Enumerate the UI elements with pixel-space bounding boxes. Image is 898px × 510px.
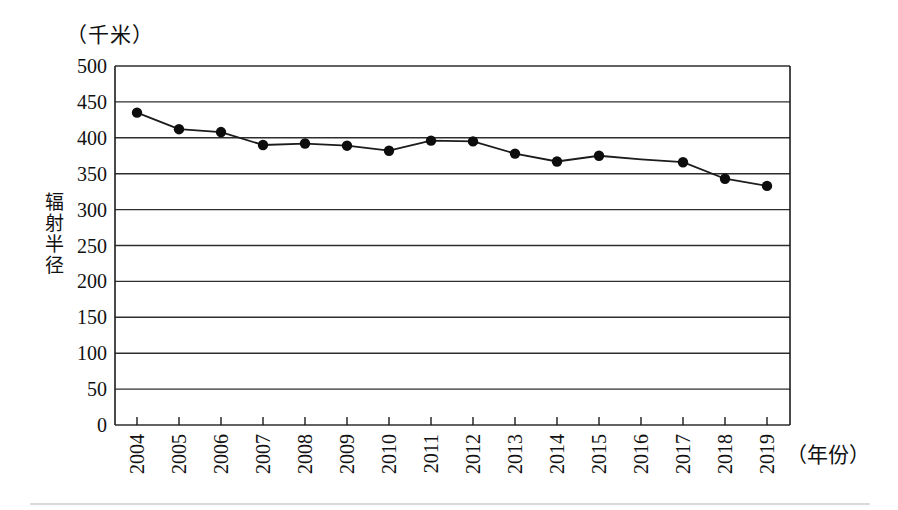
y-tick-label: 250 bbox=[77, 235, 107, 257]
data-point-marker bbox=[300, 138, 310, 148]
data-point-marker bbox=[384, 146, 394, 156]
data-point-marker bbox=[258, 140, 268, 150]
data-point-marker bbox=[468, 136, 478, 146]
y-tick-label: 350 bbox=[77, 163, 107, 185]
bottom-scan-line bbox=[30, 503, 870, 505]
data-point-marker bbox=[510, 148, 520, 158]
x-tick-label: 2008 bbox=[294, 434, 316, 474]
x-tick-label: 2013 bbox=[504, 434, 526, 474]
line-chart-plot-area: 0501001502002503003504004505002004200520… bbox=[0, 0, 898, 510]
x-tick-label: 2007 bbox=[252, 434, 274, 474]
x-axis-unit-label: （年份） bbox=[786, 438, 870, 468]
x-tick-label: 2019 bbox=[756, 434, 778, 474]
data-point-marker bbox=[720, 174, 730, 184]
y-tick-label: 200 bbox=[77, 270, 107, 292]
chart-page: （千米） 辐射半径 050100150200250300350400450500… bbox=[0, 0, 898, 510]
y-tick-label: 400 bbox=[77, 127, 107, 149]
data-point-marker bbox=[216, 127, 226, 137]
data-point-marker bbox=[342, 140, 352, 150]
y-tick-label: 500 bbox=[77, 55, 107, 77]
y-tick-label: 50 bbox=[87, 378, 107, 400]
data-point-marker bbox=[594, 151, 604, 161]
y-tick-label: 450 bbox=[77, 91, 107, 113]
y-tick-label: 300 bbox=[77, 199, 107, 221]
x-tick-label: 2012 bbox=[462, 434, 484, 474]
x-tick-label: 2005 bbox=[168, 434, 190, 474]
y-tick-label: 0 bbox=[97, 414, 107, 436]
data-point-marker bbox=[426, 135, 436, 145]
x-tick-label: 2010 bbox=[378, 434, 400, 474]
y-axis-title: 辐射半径 bbox=[42, 192, 63, 276]
x-tick-label: 2006 bbox=[210, 434, 232, 474]
data-point-marker bbox=[174, 124, 184, 134]
data-point-marker bbox=[762, 181, 772, 191]
x-tick-label: 2009 bbox=[336, 434, 358, 474]
x-tick-label: 2018 bbox=[714, 434, 736, 474]
x-tick-label: 2017 bbox=[672, 434, 694, 474]
data-line bbox=[137, 113, 767, 186]
y-tick-label: 150 bbox=[77, 306, 107, 328]
x-tick-label: 2004 bbox=[126, 434, 148, 474]
x-tick-label: 2016 bbox=[630, 434, 652, 474]
data-point-marker bbox=[678, 157, 688, 167]
data-point-marker bbox=[552, 156, 562, 166]
x-tick-label: 2011 bbox=[420, 434, 442, 473]
data-point-marker bbox=[132, 107, 142, 117]
x-tick-label: 2015 bbox=[588, 434, 610, 474]
y-axis-unit-label: （千米） bbox=[66, 18, 154, 48]
y-tick-label: 100 bbox=[77, 342, 107, 364]
x-tick-label: 2014 bbox=[546, 434, 568, 474]
